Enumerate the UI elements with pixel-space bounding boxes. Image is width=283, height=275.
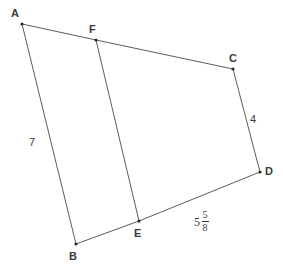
vertex-label-a: A [11,8,19,19]
segment-FC [96,40,233,69]
segment-FE [96,40,139,221]
geometry-figure: AFCDEB 74558 [0,0,283,275]
segment-BA [22,24,76,244]
vertex-label-b: B [69,251,77,262]
length-ED-whole: 5 [194,216,200,228]
segment-AF [22,24,96,40]
geometry-canvas [0,0,283,275]
length-ED-denominator: 8 [202,223,209,234]
vertex-point-d [258,170,261,173]
vertex-point-a [20,22,23,25]
length-AB: 7 [29,137,35,148]
length-CD: 4 [250,114,256,125]
vertex-label-f: F [89,24,96,35]
vertex-point-e [137,219,140,222]
vertex-label-c: C [229,53,237,64]
length-ED-fraction: 58 [202,210,209,233]
length-ED-numerator: 5 [202,210,209,221]
vertex-label-e: E [134,228,141,239]
vertex-point-b [74,242,77,245]
vertex-point-c [231,67,234,70]
edges-group [22,24,260,244]
vertex-point-f [94,38,97,41]
segment-EB [76,221,139,244]
vertices-group [20,22,261,245]
length-ED: 558 [194,210,209,233]
vertex-label-d: D [265,166,273,177]
